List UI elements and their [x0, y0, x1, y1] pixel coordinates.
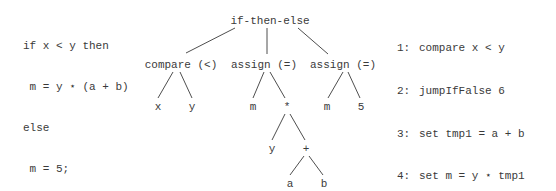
- tree-edge-cmp-y1: [180, 72, 192, 98]
- instruction-row: 2:jumpIfFalse 6: [397, 84, 525, 98]
- instruction-number: 1:: [397, 41, 419, 55]
- tree-node-asg1: assign (=): [231, 59, 297, 71]
- tree-edge-mul-plus: [290, 114, 305, 140]
- tree-node-mul: *: [284, 101, 291, 113]
- instruction-number: 4:: [397, 169, 419, 183]
- tree-node-b: b: [321, 178, 328, 190]
- instruction-text: compare x < y: [419, 41, 505, 55]
- tree-edge-asg2-m2: [328, 72, 343, 98]
- instruction-number: 3:: [397, 127, 419, 141]
- tree-node-asg2: assign (=): [310, 59, 376, 71]
- tree-edge-asg2-five: [348, 72, 360, 98]
- instruction-row: 4:set m = y ⋆ tmp1: [397, 169, 525, 183]
- tree-node-root: if-then-else: [230, 15, 309, 27]
- tree-node-m1: m: [250, 101, 257, 113]
- instruction-number: 2:: [397, 84, 419, 98]
- instruction-text: set m = y ⋆ tmp1: [419, 169, 525, 183]
- instruction-row: 1:compare x < y: [397, 41, 525, 55]
- tree-edge-asg1-mul: [270, 72, 285, 98]
- tree-node-five: 5: [358, 101, 365, 113]
- tree-node-y2: y: [269, 143, 276, 155]
- tree-edge-cmp-x: [158, 72, 173, 98]
- tree-node-x: x: [155, 101, 162, 113]
- tree-edge-plus-a: [290, 156, 304, 175]
- tree-node-m2: m: [324, 101, 331, 113]
- tree-node-y1: y: [189, 101, 196, 113]
- instruction-listing: 1:compare x < y 2:jumpIfFalse 6 3:set tm…: [397, 13, 525, 191]
- tree-edge-root-cmp: [186, 28, 235, 53]
- tree-node-a: a: [287, 178, 294, 190]
- instruction-text: jumpIfFalse 6: [419, 84, 505, 98]
- tree-edge-plus-b: [309, 156, 323, 175]
- tree-edge-mul-y2: [272, 114, 285, 140]
- instruction-text: set tmp1 = a + b: [419, 127, 525, 141]
- tree-edge-asg1-m1: [253, 72, 264, 98]
- tree-node-plus: +: [303, 143, 310, 155]
- instruction-row: 3:set tmp1 = a + b: [397, 127, 525, 141]
- tree-edge-root-asg2: [298, 28, 328, 54]
- tree-node-cmp: compare (<): [145, 59, 218, 71]
